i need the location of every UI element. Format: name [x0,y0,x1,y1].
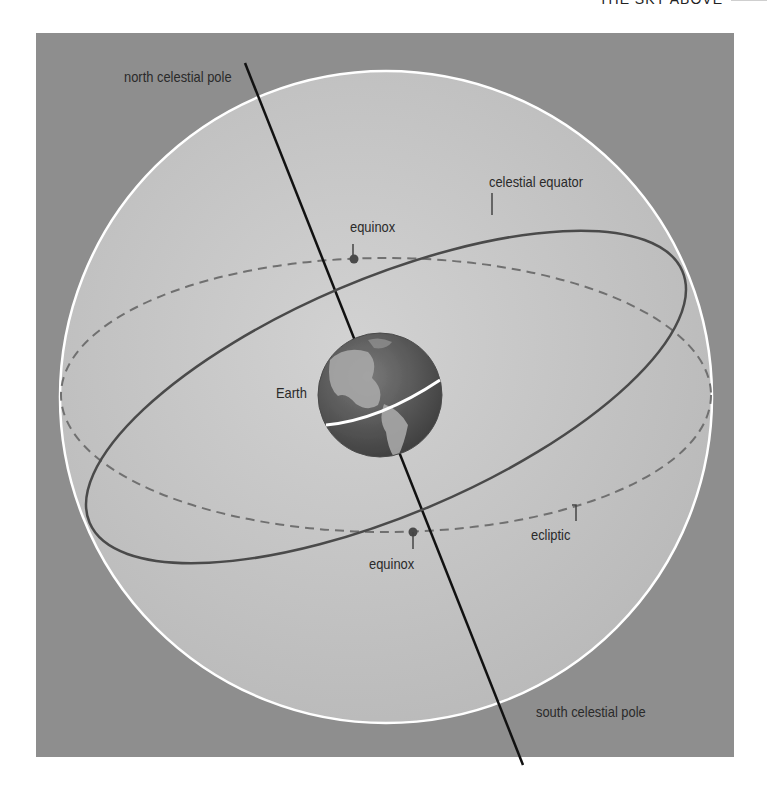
south-celestial-pole-label: south celestial pole [536,703,646,720]
celestial-equator-label: celestial equator [489,173,583,190]
equinox-top-label: equinox [350,218,395,235]
north-celestial-pole-label: north celestial pole [124,68,232,85]
earth-label: Earth [276,384,307,401]
celestial-sphere-diagram [0,0,767,788]
ecliptic-label: ecliptic [531,526,570,543]
equinox-bottom-label: equinox [369,555,414,572]
